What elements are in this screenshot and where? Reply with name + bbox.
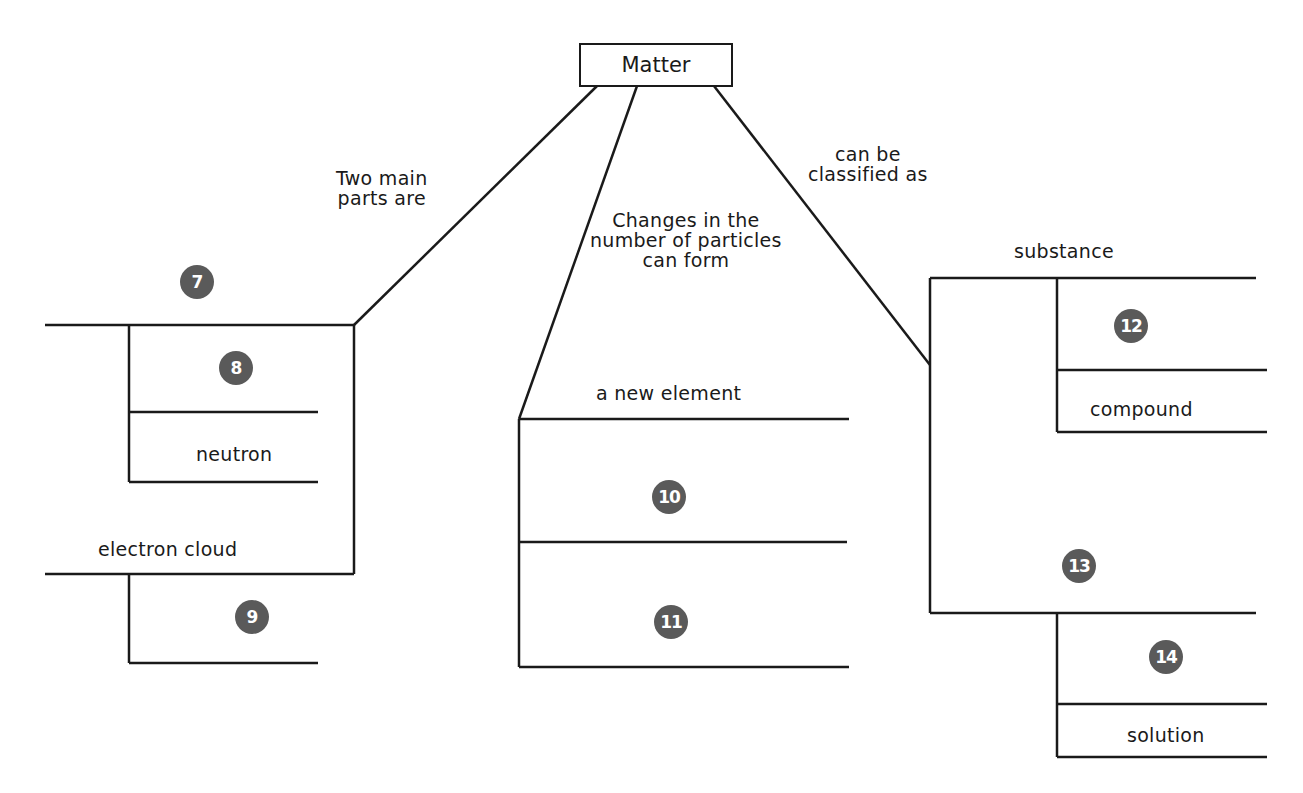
node-solution: solution xyxy=(1127,725,1205,745)
root-label: Matter xyxy=(621,53,690,77)
node-compound: compound xyxy=(1090,399,1193,419)
blank-badge-8: 8 xyxy=(219,351,253,385)
link-label-right: can be classified as xyxy=(808,144,928,184)
link-label-left: Two main parts are xyxy=(336,168,428,208)
blank-badge-11: 11 xyxy=(654,605,688,639)
blank-badge-12: 12 xyxy=(1114,309,1148,343)
node-new-element: a new element xyxy=(596,383,741,403)
root-node-matter: Matter xyxy=(579,43,733,87)
node-neutron: neutron xyxy=(196,444,272,464)
link-label-middle: Changes in the number of particles can f… xyxy=(590,210,782,270)
node-electron-cloud: electron cloud xyxy=(98,539,237,559)
blank-badge-9: 9 xyxy=(235,600,269,634)
blank-badge-14: 14 xyxy=(1149,640,1183,674)
blank-badge-10: 10 xyxy=(652,480,686,514)
blank-badge-13: 13 xyxy=(1062,549,1096,583)
blank-badge-7: 7 xyxy=(180,265,214,299)
node-substance: substance xyxy=(1014,241,1114,261)
